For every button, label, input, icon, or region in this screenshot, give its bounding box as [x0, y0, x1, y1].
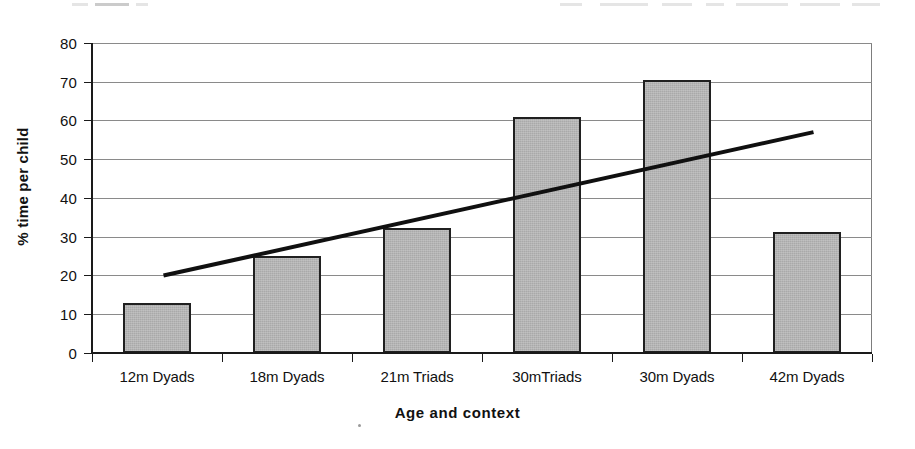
bar-fill — [385, 230, 450, 351]
y-tick-mark-60 — [84, 120, 91, 121]
scan-speck — [358, 424, 361, 427]
y-tick-label-80: 80 — [17, 36, 77, 51]
x-tick-mark-1 — [222, 354, 223, 362]
y-tick-mark-20 — [84, 275, 91, 276]
y-tick-mark-70 — [84, 82, 91, 83]
y-tick-mark-30 — [84, 237, 91, 238]
bar-30m-dyads — [643, 80, 712, 353]
bar-fill — [515, 119, 580, 351]
y-tick-label-10: 10 — [17, 307, 77, 322]
x-tick-mark-4 — [612, 354, 613, 362]
x-axis-title: Age and context — [0, 404, 915, 421]
gridline-30 — [92, 237, 872, 238]
plot-area — [92, 43, 872, 353]
y-axis-title: % time per child — [14, 77, 31, 297]
bar-fill — [125, 305, 190, 351]
y-tick-mark-0 — [84, 353, 91, 354]
y-tick-label-0: 0 — [17, 346, 77, 361]
x-tick-label-12m-dyads: 12m Dyads — [92, 368, 222, 385]
bar-42m-dyads — [773, 232, 842, 353]
gridline-20 — [92, 275, 872, 276]
x-tick-label-42m-dyads: 42m Dyads — [742, 368, 872, 385]
page-canvas: 80 70 60 50 40 30 20 10 0 12m Dyads 18m … — [0, 0, 915, 449]
bar-fill — [645, 82, 710, 351]
y-tick-mark-80 — [84, 43, 91, 44]
y-axis-line — [91, 43, 93, 354]
x-tick-mark-5 — [742, 354, 743, 362]
x-tick-mark-0 — [92, 354, 93, 362]
x-tick-label-18m-dyads: 18m Dyads — [222, 368, 352, 385]
x-tick-label-30m-dyads: 30m Dyads — [612, 368, 742, 385]
gridline-50 — [92, 159, 872, 160]
x-tick-mark-2 — [352, 354, 353, 362]
gridline-10 — [92, 314, 872, 315]
gridline-80 — [92, 43, 872, 44]
bar-chart: 80 70 60 50 40 30 20 10 0 12m Dyads 18m … — [0, 0, 915, 449]
y-tick-mark-50 — [84, 159, 91, 160]
x-tick-mark-6 — [872, 354, 873, 362]
x-tick-mark-3 — [482, 354, 483, 362]
bar-21m-triads — [383, 228, 452, 353]
gridline-40 — [92, 198, 872, 199]
x-tick-label-30m-triads: 30mTriads — [482, 368, 612, 385]
x-tick-label-21m-triads: 21m Triads — [352, 368, 482, 385]
gridline-70 — [92, 82, 872, 83]
bar-12m-dyads — [123, 303, 192, 353]
bar-18m-dyads — [253, 256, 322, 353]
bar-fill — [775, 234, 840, 351]
bar-fill — [255, 258, 320, 351]
bar-30m-triads — [513, 117, 582, 353]
y-tick-mark-10 — [84, 314, 91, 315]
y-tick-mark-40 — [84, 198, 91, 199]
gridline-60 — [92, 120, 872, 121]
